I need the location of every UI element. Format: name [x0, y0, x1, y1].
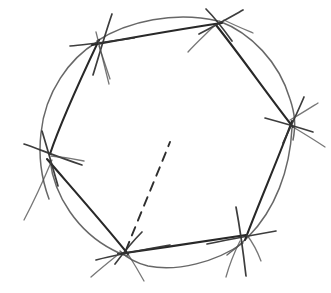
dashed-interior-segment-group — [126, 142, 170, 250]
vertex-left-tick-c — [24, 160, 52, 220]
edge-upper-right — [216, 25, 293, 127]
vertex-bottom-left — [91, 232, 170, 281]
sketch-canvas: Hand-drawn hexagon inscribed in a circle… — [0, 0, 331, 293]
vertex-bottom-right-tick-c — [247, 235, 261, 261]
vertex-bottom-left-tick-d — [91, 253, 120, 277]
edge-lower-left — [47, 159, 128, 254]
circle-arc-bottom — [120, 243, 243, 268]
vertex-bottom-right-tick-d — [226, 241, 240, 277]
circle-arc-top — [97, 17, 218, 41]
dashed-interior-segment — [126, 142, 170, 250]
edge-upper-left — [50, 40, 99, 154]
vertex-right-tick-d — [290, 103, 318, 120]
vertex-top-left-tick-d — [99, 46, 110, 79]
vertex-bottom-right-tick-a — [236, 207, 246, 276]
circumscribed-circle-group — [40, 17, 295, 268]
vertex-bottom-right — [207, 207, 276, 277]
hexagon-edges-group — [47, 23, 293, 254]
circle-arc-top-left — [40, 42, 97, 199]
hexagon-in-circle-drawing: Hand-drawn hexagon inscribed in a circle… — [0, 0, 331, 293]
vertex-top-right-tick-c — [188, 25, 215, 52]
vertex-bottom-left-tick-c — [128, 254, 144, 281]
vertex-bottom-left-tick-b — [115, 232, 142, 264]
vertex-top-left — [70, 14, 134, 84]
